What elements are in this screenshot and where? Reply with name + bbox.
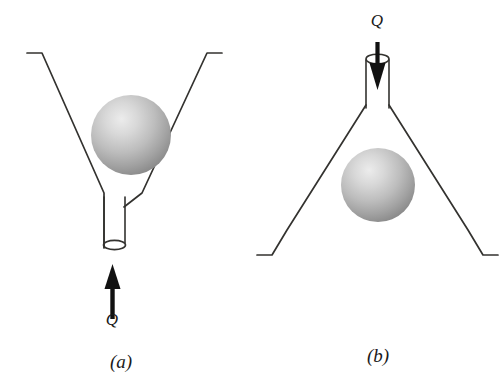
panel-caption-b: (b) [367,345,389,367]
canvas-background [0,0,502,384]
sphere-b [341,148,415,222]
flow-label-a: Q [106,310,118,329]
flow-label-b: Q [371,11,383,30]
sphere-a [91,95,171,175]
panel-caption-a: (a) [110,351,132,373]
figure-canvas: Q (a) Q (b) [0,0,502,384]
